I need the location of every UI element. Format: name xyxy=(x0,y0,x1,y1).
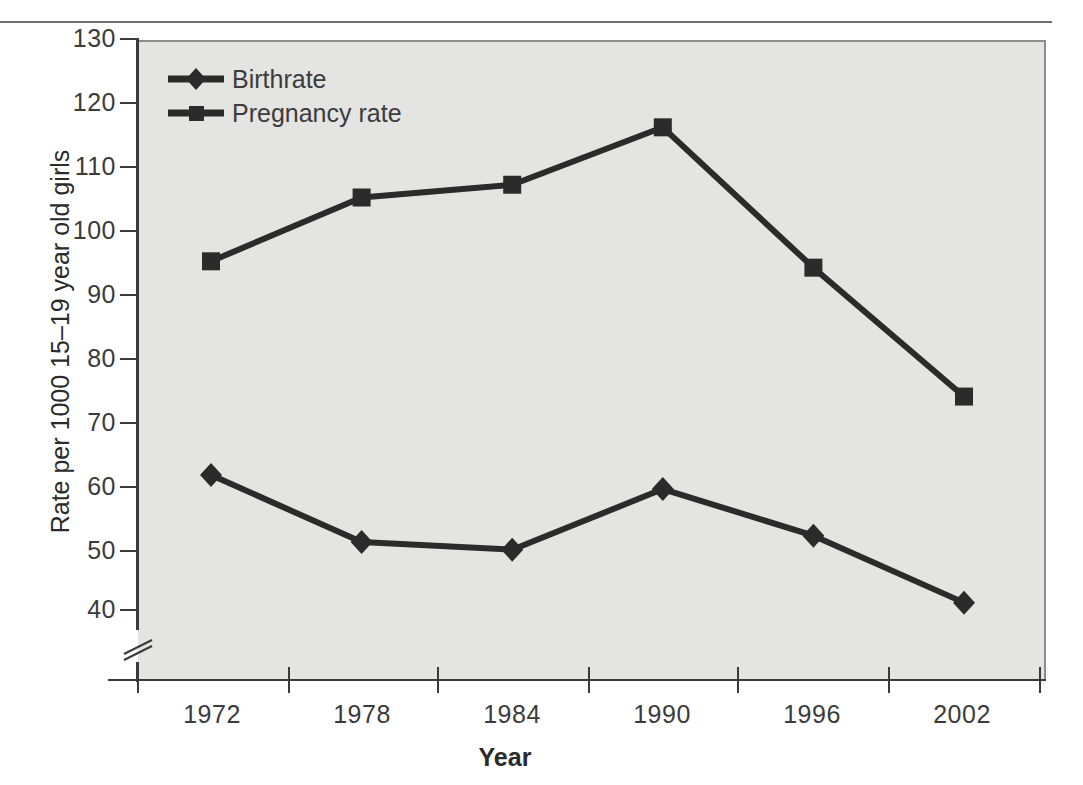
y-tick-mark-80 xyxy=(120,358,138,360)
x-tick-mark-1978 xyxy=(288,667,290,693)
x-tick-label-1972: 1972 xyxy=(157,700,267,728)
y-tick-label-130: 130 xyxy=(58,26,116,51)
y-tick-mark-110 xyxy=(120,166,138,168)
x-tick-label-2002: 2002 xyxy=(907,700,1017,728)
x-axis-line xyxy=(108,679,1046,681)
legend-item-birthrate: Birthrate xyxy=(168,64,498,98)
x-tick-label-1978: 1978 xyxy=(307,700,417,728)
y-tick-mark-90 xyxy=(120,294,138,296)
y-tick-mark-40 xyxy=(120,609,138,611)
x-tick-mark-1972 xyxy=(137,667,139,693)
x-axis-title: Year xyxy=(0,743,1010,772)
y-axis-line xyxy=(136,38,139,630)
y-tick-mark-60 xyxy=(120,486,138,488)
y-tick-mark-120 xyxy=(120,102,138,104)
y-tick-mark-100 xyxy=(120,230,138,232)
legend-label-birthrate: Birthrate xyxy=(232,64,326,94)
y-tick-label-130-wrap: 130 xyxy=(30,26,116,51)
diamond-marker-icon xyxy=(168,64,224,94)
y-tick-label-40-wrap: 40 xyxy=(30,597,116,622)
chart-figure: 130 120 110 100 90 80 70 60 50 40 1972 xyxy=(0,0,1083,785)
square-marker-icon xyxy=(168,98,224,128)
y-tick-label-120-wrap: 120 xyxy=(30,90,116,115)
x-tick-mark-1996 xyxy=(737,667,739,693)
x-tick-label-1984: 1984 xyxy=(457,700,567,728)
x-tick-mark-end xyxy=(1039,667,1041,693)
x-tick-label-1996: 1996 xyxy=(757,700,867,728)
y-axis-title: Rate per 1000 15–19 year old girls xyxy=(46,132,75,552)
header-rule xyxy=(0,21,1052,23)
legend-label-pregnancy-rate: Pregnancy rate xyxy=(232,98,402,128)
y-tick-mark-70 xyxy=(120,422,138,424)
y-tick-label-120: 120 xyxy=(58,90,116,115)
x-tick-mark-1990 xyxy=(588,667,590,693)
chart-legend: Birthrate Pregnancy rate xyxy=(168,64,498,132)
plot-area xyxy=(138,40,1046,680)
y-tick-label-40: 40 xyxy=(58,597,116,622)
x-tick-mark-1984 xyxy=(437,667,439,693)
x-tick-mark-2002 xyxy=(888,667,890,693)
x-tick-label-1990: 1990 xyxy=(607,700,717,728)
legend-item-pregnancy-rate: Pregnancy rate xyxy=(168,98,498,132)
y-tick-mark-50 xyxy=(120,550,138,552)
y-axis-break-icon xyxy=(122,634,156,664)
y-tick-mark-130 xyxy=(120,38,138,40)
